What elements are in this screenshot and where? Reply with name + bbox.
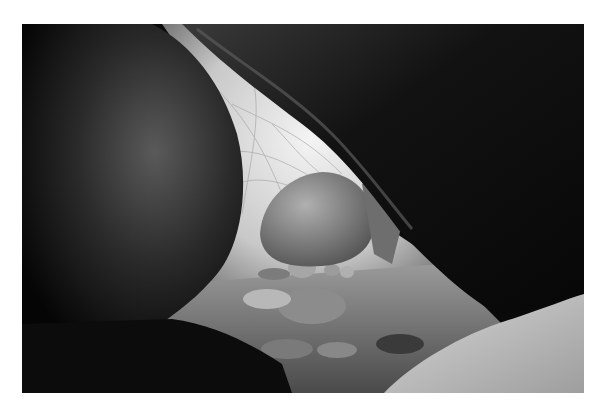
photograph [22, 24, 584, 393]
cave-scene [22, 24, 584, 393]
